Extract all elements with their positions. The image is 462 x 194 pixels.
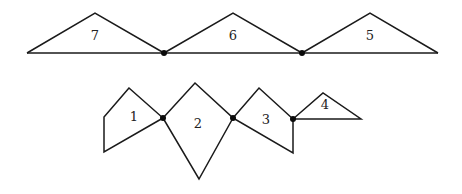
label-5: 5 <box>366 28 374 43</box>
bottom-row: 1 2 3 4 <box>104 83 361 179</box>
label-6: 6 <box>229 28 237 43</box>
joint-dot-top-1 <box>161 50 167 56</box>
joint-dot-bottom-1 <box>160 115 166 121</box>
label-2: 2 <box>194 116 202 131</box>
label-1: 1 <box>130 109 138 124</box>
joint-dot-bottom-2 <box>230 115 236 121</box>
label-3: 3 <box>262 112 270 127</box>
polygon-2-outline <box>163 83 233 179</box>
polygon-chain-diagram: 7 6 5 1 2 3 4 <box>0 0 462 194</box>
joint-dot-top-2 <box>299 50 305 56</box>
label-7: 7 <box>91 28 99 43</box>
label-4: 4 <box>321 97 329 112</box>
top-row: 7 6 5 <box>27 13 438 56</box>
joint-dot-bottom-3 <box>290 116 296 122</box>
